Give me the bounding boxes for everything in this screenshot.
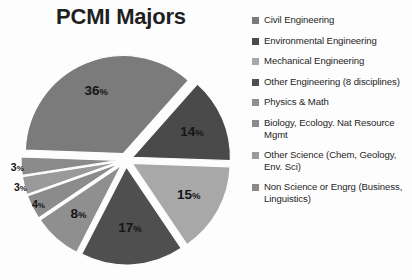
legend-swatch-icon [252,58,259,65]
legend-swatch-icon [252,17,259,24]
legend-item[interactable]: Physics & Math [252,96,412,108]
legend-item-label: Other Science (Chem, Geology, Env. Sci) [264,149,412,172]
legend-swatch-icon [252,184,259,191]
pie-slice-value-label: 15% [177,187,201,202]
legend-item-label: Environmental Engineering [264,35,377,47]
legend-swatch-icon [252,152,259,159]
legend-item[interactable]: Other Engineering (8 disciplines) [252,76,412,88]
pie-slice-value-label: 36% [84,83,108,98]
legend-item-label: Other Engineering (8 disciplines) [264,76,400,88]
legend-item[interactable]: Other Science (Chem, Geology, Env. Sci) [252,149,412,172]
slide-canvas: PCMI Majors 36%14%15%17%8%4%3%3% Civil E… [0,0,412,280]
legend-item[interactable]: Civil Engineering [252,14,412,26]
legend-swatch-icon [252,120,259,127]
chart-legend: Civil EngineeringEnvironmental Engineeri… [252,14,412,276]
legend-swatch-icon [252,79,259,86]
legend-item-label: Physics & Math [264,96,329,108]
legend-item-label: Non Science or Engrg (Business, Linguist… [264,181,412,204]
legend-item-label: Biology, Ecology. Nat Resource Mgmt [264,117,412,140]
legend-item-label: Mechanical Engineering [264,55,364,67]
page-title: PCMI Majors [36,4,206,30]
legend-item-label: Civil Engineering [264,14,334,26]
legend-swatch-icon [252,38,259,45]
legend-item[interactable]: Non Science or Engrg (Business, Linguist… [252,181,412,204]
pie-slice-value-label: 8% [70,206,87,221]
legend-item[interactable]: Mechanical Engineering [252,55,412,67]
legend-item[interactable]: Environmental Engineering [252,35,412,47]
pie-slice-value-label: 14% [180,124,204,139]
pie-chart: 36%14%15%17%8%4%3%3% [0,30,248,280]
pie-slice-value-label: 17% [118,220,142,235]
pie-chart-svg: 36%14%15%17%8%4%3%3% [0,30,248,280]
legend-item[interactable]: Biology, Ecology. Nat Resource Mgmt [252,117,412,140]
legend-swatch-icon [252,99,259,106]
